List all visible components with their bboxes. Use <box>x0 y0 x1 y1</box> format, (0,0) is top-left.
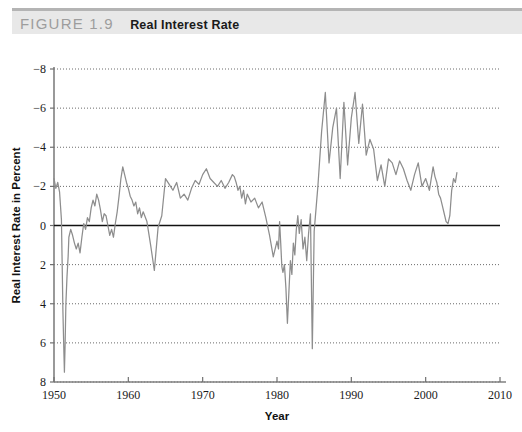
x-tick-label-1980: 1980 <box>265 388 289 402</box>
y-tick-label-0: 0 <box>40 219 46 233</box>
figure-number-label: FIGURE 1.9 <box>20 15 114 32</box>
real-interest-rate-line-chart: 86420−2−4−6−8195019601970198019902000201… <box>0 38 522 432</box>
x-tick-label-1970: 1970 <box>191 388 215 402</box>
chart-container: 86420−2−4−6−8195019601970198019902000201… <box>0 38 522 432</box>
y-tick-label-6: −6 <box>33 101 46 115</box>
x-tick-label-2000: 2000 <box>414 388 438 402</box>
y-tick-label--6: 6 <box>40 336 46 350</box>
y-tick-label-4: −4 <box>33 140 46 154</box>
x-tick-label-2010: 2010 <box>488 388 512 402</box>
figure-header-band: FIGURE 1.9 Real Interest Rate <box>12 8 522 34</box>
y-axis-title: Real Interest Rate in Percent <box>10 147 22 303</box>
x-axis-title: Year <box>265 410 290 422</box>
x-tick-label-1950: 1950 <box>42 388 66 402</box>
figure-title-label: Real Interest Rate <box>130 18 239 32</box>
series-line-0 <box>54 92 457 372</box>
data-series <box>54 92 457 372</box>
figure-header-text: FIGURE 1.9 Real Interest Rate <box>20 15 239 33</box>
y-tick-label--8: 8 <box>40 375 46 389</box>
x-tick-label-1990: 1990 <box>339 388 363 402</box>
page-bottom-edge <box>0 428 522 432</box>
y-tick-label-8: −8 <box>33 62 46 76</box>
y-tick-label-2: −2 <box>33 179 46 193</box>
axis-titles: YearReal Interest Rate in Percent <box>10 147 290 422</box>
x-tick-label-1960: 1960 <box>116 388 140 402</box>
axis-tick-labels: 86420−2−4−6−8195019601970198019902000201… <box>33 62 512 402</box>
y-tick-label--4: 4 <box>40 297 46 311</box>
y-tick-label--2: 2 <box>40 258 46 272</box>
